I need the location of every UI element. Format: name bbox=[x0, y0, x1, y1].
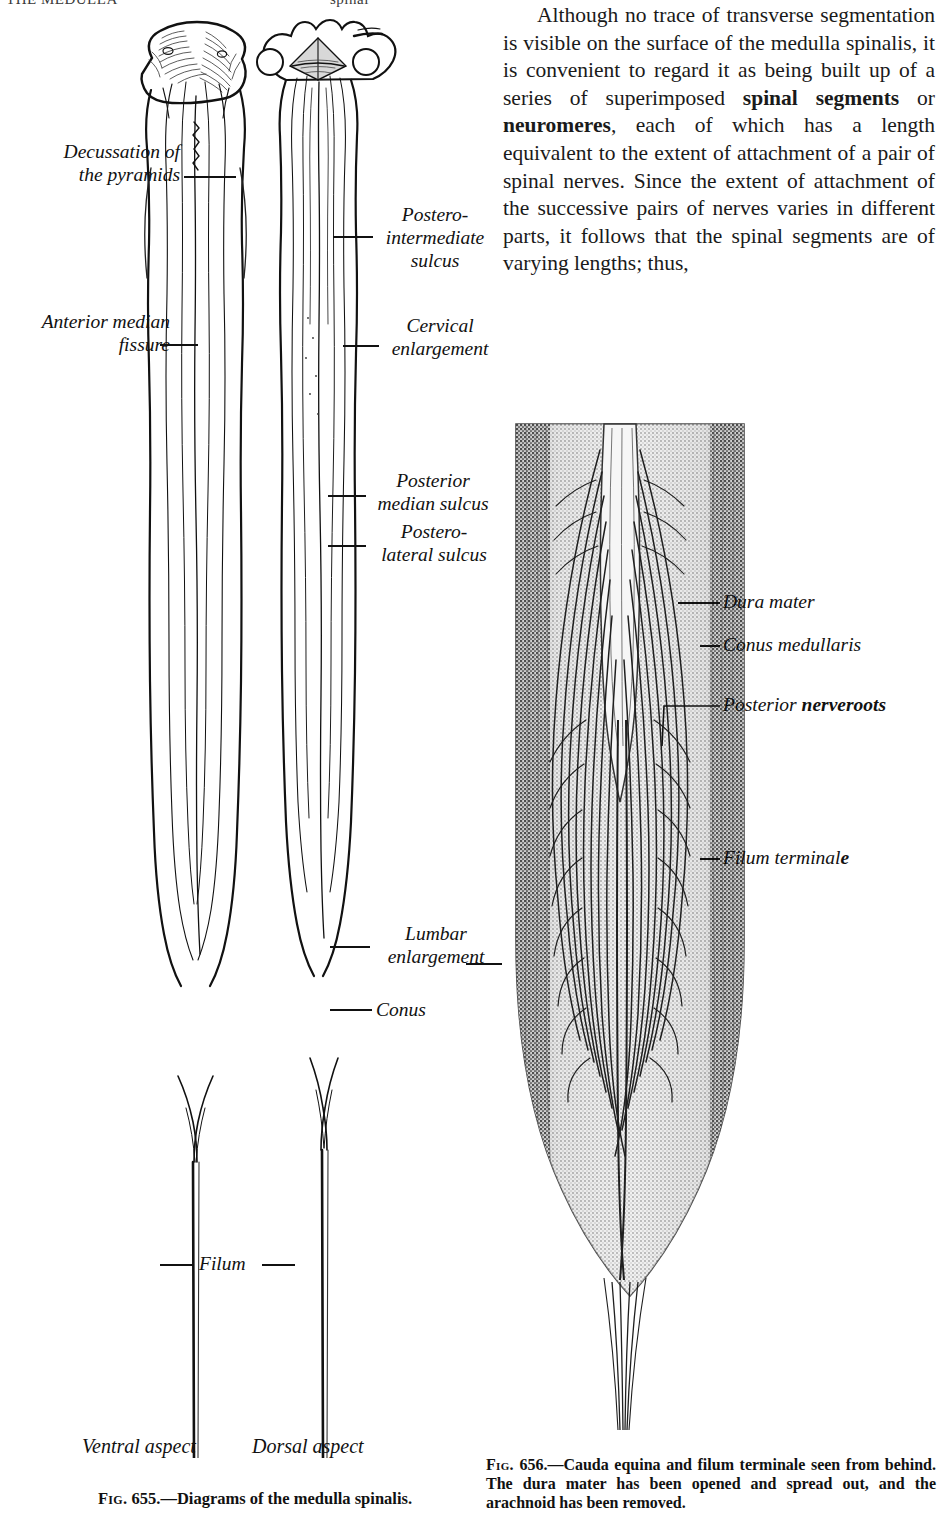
label-decussation-of-pyramids: Decussation of the pyramids bbox=[10, 140, 180, 186]
label-postero-intermediate-sulcus: Postero- intermediate sulcus bbox=[372, 203, 498, 272]
label-conus-medullaris: Conus medullaris bbox=[723, 634, 861, 656]
leader-lumbar-enlargement bbox=[330, 946, 370, 948]
figure-655-caption-text: —Diagrams of the medulla spinalis. bbox=[160, 1489, 412, 1508]
figure-655-caption: Fig. 655.—Diagrams of the medulla spinal… bbox=[40, 1489, 470, 1509]
running-header-right: spinal bbox=[330, 0, 369, 8]
leader-posterior-nerveroots bbox=[660, 690, 724, 750]
running-header: THE MEDULLA spinal bbox=[0, 0, 500, 9]
leader-dura-mater bbox=[678, 602, 720, 604]
cauda-equina-plate-svg bbox=[500, 420, 760, 1440]
leader-cervical-enlargement bbox=[343, 345, 379, 347]
leader-conus-medullaris bbox=[700, 645, 720, 647]
leader-conus bbox=[330, 1009, 372, 1011]
running-header-left: THE MEDULLA bbox=[6, 0, 118, 8]
leader-anterior-median-fissure bbox=[160, 344, 198, 346]
leader-filum-terminale bbox=[700, 858, 720, 860]
caption-ventral-aspect: Ventral aspect bbox=[82, 1435, 196, 1458]
figure-656-caption-prefix: Fig. bbox=[486, 1456, 514, 1473]
figure-656 bbox=[500, 420, 760, 1440]
body-paragraph: Although no trace of transverse segmenta… bbox=[503, 2, 935, 278]
label-dura-mater: Dura mater bbox=[723, 591, 815, 613]
body-text-column: Although no trace of transverse segmenta… bbox=[503, 2, 935, 278]
caption-dorsal-aspect: Dorsal aspect bbox=[252, 1435, 364, 1458]
figure-655-caption-prefix: Fig. bbox=[98, 1489, 127, 1508]
leader-unlabelled-dura-left bbox=[466, 963, 502, 965]
leader-postero-intermediate-sulcus bbox=[333, 236, 373, 238]
label-filum-terminale: Filum terminale bbox=[723, 847, 849, 869]
figure-656-caption: Fig. 656.—Cauda equina and filum termina… bbox=[486, 1455, 936, 1512]
figure-655-caption-number: 655. bbox=[132, 1489, 161, 1508]
label-conus: Conus bbox=[376, 998, 426, 1021]
label-lumbar-enlargement: Lumbar enlargement bbox=[374, 922, 498, 968]
label-anterior-median-fissure: Anterior median fissure bbox=[0, 310, 170, 356]
label-cervical-enlargement: Cervical enlargement bbox=[382, 314, 498, 360]
label-posterior-median-sulcus: Posterior median sulcus bbox=[368, 469, 498, 515]
textbook-page: THE MEDULLA spinal Although no trace of … bbox=[0, 0, 942, 1523]
label-postero-lateral-sulcus: Postero- lateral sulcus bbox=[370, 520, 498, 566]
leader-postero-lateral-sulcus bbox=[328, 545, 366, 547]
figure-656-caption-number: 656. bbox=[519, 1456, 547, 1473]
figure-656-caption-text: —Cauda equina and filum terminale seen f… bbox=[486, 1456, 936, 1511]
ventral-aspect-drawing bbox=[142, 22, 247, 1458]
leader-filum-right bbox=[262, 1264, 295, 1266]
leader-posterior-median-sulcus bbox=[328, 495, 366, 497]
leader-decussation bbox=[184, 176, 236, 178]
label-posterior-nerveroots: Posterior nerveroots bbox=[723, 694, 886, 716]
leader-filum-left bbox=[160, 1264, 193, 1266]
label-filum: Filum bbox=[199, 1252, 246, 1275]
